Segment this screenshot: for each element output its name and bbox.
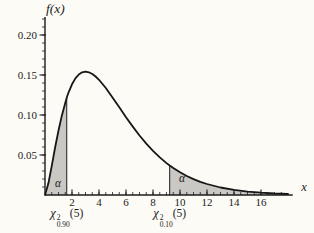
chi-symbol: χ: [153, 206, 159, 220]
y-tick-label: 0.20: [18, 29, 38, 41]
alpha-label-left-tail: α: [55, 177, 61, 189]
chi-subscript: 0.90: [57, 222, 70, 229]
x-tick-label: 16: [256, 196, 268, 208]
y-tick-label: 0.10: [18, 109, 38, 121]
chi-square-distribution-figure: 2468101214160.050.100.150.20 f(x) x α α …: [0, 0, 314, 233]
alpha-label-right-tail: α: [179, 171, 185, 183]
x-tick-label: 14: [229, 196, 241, 208]
y-tick-label: 0.05: [18, 149, 38, 161]
y-axis-title: f(x): [46, 1, 65, 17]
chi-subscript: 0.10: [160, 222, 173, 229]
x-tick-label: 6: [123, 196, 129, 208]
critical-value-label-upper: χ20.10(5): [153, 206, 186, 228]
density-curve: [45, 72, 288, 195]
degrees-of-freedom: (5): [173, 207, 186, 219]
right-tail-shaded-area: [170, 166, 288, 196]
x-tick-label: 4: [96, 196, 102, 208]
chi-symbol: χ: [50, 206, 56, 220]
chart-canvas: 2468101214160.050.100.150.20: [0, 0, 314, 233]
critical-value-label-lower: χ20.90(5): [50, 206, 83, 228]
degrees-of-freedom: (5): [70, 207, 83, 219]
x-axis-title: x: [301, 180, 307, 195]
x-tick-label: 12: [202, 196, 213, 208]
y-tick-label: 0.15: [18, 69, 38, 81]
